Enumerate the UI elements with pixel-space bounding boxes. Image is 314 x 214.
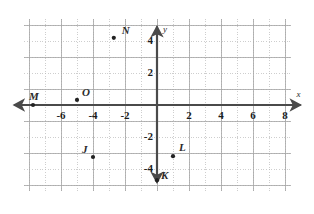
x-tick-label: 6 bbox=[244, 110, 262, 121]
data-point-k bbox=[155, 178, 159, 182]
point-label-j: J bbox=[82, 144, 88, 155]
data-point-n bbox=[112, 36, 116, 40]
data-point-j bbox=[91, 155, 95, 159]
axes bbox=[14, 27, 300, 183]
point-label-o: O bbox=[82, 87, 90, 98]
x-tick-label: 4 bbox=[212, 110, 230, 121]
y-axis-label: y bbox=[163, 25, 167, 34]
y-tick-label: -2 bbox=[133, 131, 153, 142]
data-point-o bbox=[75, 98, 79, 102]
data-points bbox=[31, 36, 175, 183]
data-point-m bbox=[31, 103, 35, 107]
point-label-n: N bbox=[122, 25, 130, 36]
graph-canvas bbox=[0, 0, 314, 214]
x-tick-label: -6 bbox=[52, 110, 70, 121]
point-label-k: K bbox=[161, 170, 168, 181]
x-tick-label: -2 bbox=[116, 110, 134, 121]
y-tick-label: 2 bbox=[133, 67, 153, 78]
coordinate-plane: -6-4-2246842-2-4xyNOMJLK bbox=[0, 0, 314, 214]
x-tick-label: 8 bbox=[276, 110, 294, 121]
x-tick-label: 2 bbox=[180, 110, 198, 121]
point-label-m: M bbox=[29, 91, 39, 102]
data-point-l bbox=[171, 154, 175, 158]
point-label-l: L bbox=[179, 142, 186, 153]
y-tick-label: 4 bbox=[133, 35, 153, 46]
x-tick-label: -4 bbox=[84, 110, 102, 121]
y-tick-label: -4 bbox=[133, 163, 153, 174]
x-axis-label: x bbox=[296, 90, 300, 99]
